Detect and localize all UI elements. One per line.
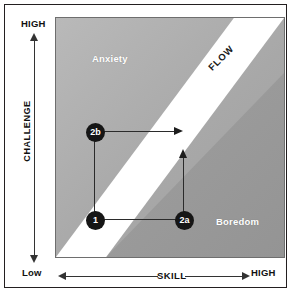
connector-2a-to-flow: [183, 157, 184, 212]
x-axis-line-right: [185, 276, 243, 277]
figure-frame: HIGH CHALLENGE Anxiety FLOW Boredom: [4, 4, 287, 288]
y-axis-high-label: HIGH: [21, 18, 46, 29]
marker-2b-label: 2b: [90, 128, 101, 137]
x-axis-line-left: [66, 276, 158, 277]
marker-2a[interactable]: 2a: [175, 211, 194, 230]
x-axis-low-label: Low: [22, 267, 42, 278]
connector-1-to-2b: [94, 132, 95, 220]
y-axis-arrow-down-icon: [30, 255, 38, 263]
marker-1-label: 1: [93, 216, 98, 225]
arrow-head-up-icon: [179, 149, 187, 158]
marker-1[interactable]: 1: [86, 211, 105, 230]
x-axis-title: SKILL: [157, 270, 186, 281]
region-label-anxiety: Anxiety: [92, 53, 128, 64]
y-axis-title: CHALLENGE: [21, 91, 33, 171]
plot-area: Anxiety FLOW Boredom 1 2a: [55, 17, 285, 258]
arrow-head-right-icon: [174, 127, 183, 135]
connector-1-to-2a: [95, 219, 185, 220]
y-axis-line: [34, 40, 35, 256]
marker-2b[interactable]: 2b: [86, 123, 105, 142]
x-axis-high-label: HIGH: [251, 267, 276, 278]
region-label-boredom: Boredom: [216, 216, 259, 227]
plot-inner: Anxiety FLOW Boredom 1 2a: [56, 18, 284, 257]
x-axis-arrow-left-icon: [58, 272, 66, 280]
x-axis-arrow-right-icon: [242, 272, 250, 280]
connector-2b-to-flow: [104, 131, 175, 132]
flow-channel-diagram: HIGH CHALLENGE Anxiety FLOW Boredom: [0, 0, 292, 293]
marker-2a-label: 2a: [179, 216, 189, 225]
